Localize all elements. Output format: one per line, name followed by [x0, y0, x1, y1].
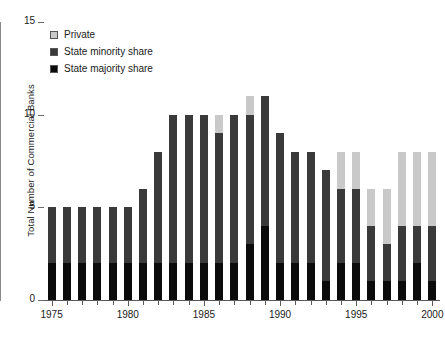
bar-segment-1978-state-minority-share [93, 207, 101, 263]
bar-segment-1984-state-majority-share [185, 263, 193, 300]
bar-segment-1988-state-minority-share [246, 115, 254, 245]
bar-segment-1993-state-majority-share [322, 281, 330, 300]
x-tick-1978 [97, 301, 98, 305]
bar-segment-1985-state-minority-share [200, 115, 208, 263]
legend-label: State minority share [64, 46, 153, 57]
bar-segment-1998-private [398, 152, 406, 226]
legend-item-state-minority-share[interactable]: State minority share [50, 43, 153, 60]
bar-1998[interactable] [398, 152, 406, 300]
bar-segment-1999-private [413, 152, 421, 226]
x-tick-1991 [295, 301, 296, 305]
x-tick-1992 [311, 301, 312, 305]
bar-segment-1980-state-majority-share [124, 263, 132, 300]
bar-segment-1987-state-majority-share [230, 263, 238, 300]
bar-segment-1997-state-minority-share [383, 244, 391, 281]
x-tick-1979 [113, 301, 114, 305]
bar-1989[interactable] [261, 96, 269, 300]
bar-segment-1999-state-majority-share [413, 263, 421, 300]
bar-1990[interactable] [276, 133, 284, 300]
bar-1979[interactable] [109, 207, 117, 300]
bar-segment-1992-state-majority-share [307, 263, 315, 300]
y-axis-title: Total Number of Commercial Banks [25, 46, 36, 276]
bar-segment-1978-state-majority-share [93, 263, 101, 300]
bar-1986[interactable] [215, 115, 223, 300]
bar-1996[interactable] [367, 189, 375, 300]
bar-segment-1982-state-minority-share [154, 152, 162, 263]
bar-1992[interactable] [307, 152, 315, 300]
bar-segment-1984-state-minority-share [185, 115, 193, 263]
bar-1985[interactable] [200, 115, 208, 300]
bar-2000[interactable] [428, 152, 436, 300]
x-tick-1977 [82, 301, 83, 305]
x-tick-label-1980: 1980 [106, 309, 150, 320]
bar-segment-1989-state-majority-share [261, 226, 269, 300]
bar-segment-1994-state-majority-share [337, 263, 345, 300]
legend-item-state-majority-share[interactable]: State majority share [50, 60, 153, 77]
x-tick-1995 [356, 301, 357, 306]
bar-segment-1991-state-majority-share [291, 263, 299, 300]
y-tick-label-15: 15 [2, 15, 35, 26]
bar-1995[interactable] [352, 152, 360, 300]
legend-swatch-icon [50, 48, 58, 56]
y-tick-0 [38, 300, 44, 301]
bar-1981[interactable] [139, 189, 147, 300]
x-tick-label-1975: 1975 [30, 309, 74, 320]
bar-segment-1976-state-majority-share [63, 263, 71, 300]
x-axis-line [44, 300, 440, 301]
chart-legend: PrivateState minority shareState majorit… [50, 26, 153, 77]
bar-segment-1996-private [367, 189, 375, 226]
x-tick-1990 [280, 301, 281, 306]
bar-1988[interactable] [246, 96, 254, 300]
bar-segment-2000-state-minority-share [428, 226, 436, 282]
bar-1993[interactable] [322, 170, 330, 300]
legend-swatch-icon [50, 65, 58, 73]
bar-1978[interactable] [93, 207, 101, 300]
bar-segment-1990-state-minority-share [276, 133, 284, 263]
legend-label: State majority share [64, 63, 153, 74]
x-tick-1981 [143, 301, 144, 305]
bar-1980[interactable] [124, 207, 132, 300]
bar-segment-1986-state-majority-share [215, 263, 223, 300]
bar-segment-1996-state-minority-share [367, 226, 375, 282]
x-tick-1989 [265, 301, 266, 305]
x-tick-1980 [128, 301, 129, 306]
bar-1977[interactable] [78, 207, 86, 300]
bar-1997[interactable] [383, 189, 391, 300]
x-tick-1996 [371, 301, 372, 305]
x-tick-2000 [432, 301, 433, 306]
x-tick-label-1985: 1985 [182, 309, 226, 320]
x-tick-label-1990: 1990 [258, 309, 302, 320]
x-tick-1988 [250, 301, 251, 305]
bar-1991[interactable] [291, 152, 299, 300]
bar-1984[interactable] [185, 115, 193, 300]
bar-1983[interactable] [169, 115, 177, 300]
bar-segment-1982-state-majority-share [154, 263, 162, 300]
bar-segment-1986-private [215, 115, 223, 134]
bar-segment-1989-state-minority-share [261, 96, 269, 226]
bar-1994[interactable] [337, 152, 345, 300]
bar-1999[interactable] [413, 152, 421, 300]
bar-1976[interactable] [63, 207, 71, 300]
bar-segment-1994-state-minority-share [337, 189, 345, 263]
x-tick-1994 [341, 301, 342, 305]
x-tick-1999 [417, 301, 418, 305]
x-tick-1983 [173, 301, 174, 305]
bar-segment-1993-state-minority-share [322, 170, 330, 281]
bar-1975[interactable] [48, 207, 56, 300]
bar-segment-1987-state-minority-share [230, 115, 238, 263]
bar-segment-1999-state-minority-share [413, 226, 421, 263]
bar-1987[interactable] [230, 115, 238, 300]
bar-segment-1977-state-minority-share [78, 207, 86, 263]
bar-segment-1992-state-minority-share [307, 152, 315, 263]
bar-segment-1988-private [246, 96, 254, 115]
y-tick-label-5: 5 [2, 200, 35, 211]
x-tick-1993 [326, 301, 327, 305]
bar-segment-1977-state-majority-share [78, 263, 86, 300]
bar-1982[interactable] [154, 152, 162, 300]
bar-segment-1998-state-minority-share [398, 226, 406, 282]
x-tick-1984 [189, 301, 190, 305]
bar-segment-1996-state-majority-share [367, 281, 375, 300]
x-tick-1976 [67, 301, 68, 305]
bar-segment-1981-state-majority-share [139, 263, 147, 300]
legend-item-private[interactable]: Private [50, 26, 153, 43]
